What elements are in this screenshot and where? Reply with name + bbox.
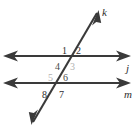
angle-label-1: 1 — [62, 45, 67, 56]
angle-label-4: 4 — [55, 61, 60, 72]
line-label-m: m — [124, 88, 132, 100]
angle-label-2: 2 — [76, 45, 81, 56]
angle-label-8: 8 — [42, 89, 47, 100]
transversal-line-k — [33, 13, 97, 122]
transversal-line-k-group — [29, 10, 101, 125]
geometry-diagram: k j m 1 2 4 3 5 6 8 7 — [0, 0, 139, 134]
angle-label-6: 6 — [63, 72, 68, 83]
geometry-figure-svg: k j m 1 2 4 3 5 6 8 7 — [0, 0, 139, 134]
angle-label-3: 3 — [70, 61, 75, 72]
line-label-k: k — [102, 6, 108, 18]
line-label-j: j — [124, 62, 129, 74]
angle-label-7: 7 — [59, 89, 64, 100]
parallel-line-j-group — [3, 51, 131, 62]
angle-label-5: 5 — [48, 72, 53, 83]
